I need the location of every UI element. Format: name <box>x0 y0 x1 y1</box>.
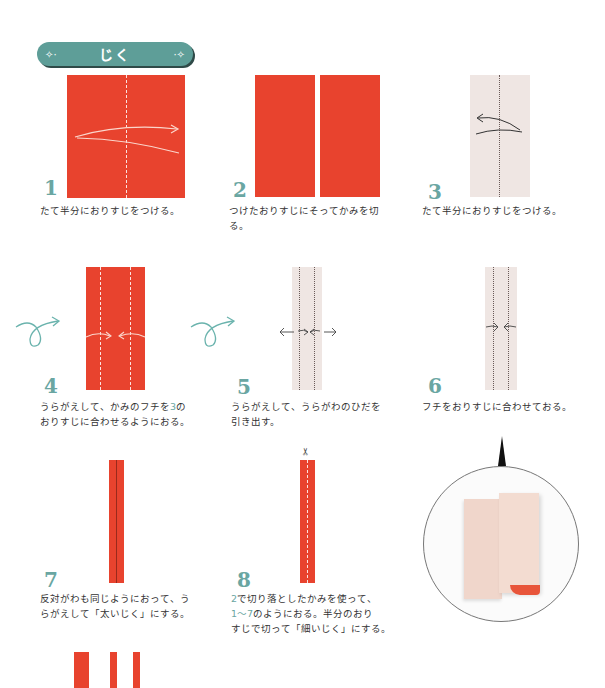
step-7-diagram <box>109 460 124 583</box>
bottom-strip <box>133 652 140 688</box>
fold-arrows-icon <box>484 319 518 335</box>
fold-arrows-icon <box>86 267 145 390</box>
step-number: 8 <box>237 570 251 590</box>
bottom-strip <box>110 652 117 688</box>
section-title: じく <box>99 44 131 64</box>
step-3-diagram <box>470 75 530 197</box>
flip-over-arrow-icon <box>14 317 64 347</box>
step-caption: うらがえして、かみのフチを3の おりすじに合わせるようにおる。 <box>40 399 210 429</box>
pointer-arrow-icon <box>496 436 508 466</box>
step-number: 7 <box>44 570 58 590</box>
step-number: 6 <box>428 376 442 396</box>
bottom-strip <box>74 652 89 688</box>
fold-arrow-icon <box>67 75 185 198</box>
sparkle-icon: ✧· <box>45 49 57 60</box>
step-number: 4 <box>44 376 58 396</box>
sparkle-icon: ·✧ <box>173 49 185 60</box>
step-caption: うらがえして、うらがわのひだを 引き出す。 <box>231 399 411 429</box>
step-caption: つけたおりすじにそってかみを切 る。 <box>229 203 409 233</box>
step-2-right-half <box>320 75 380 197</box>
step-4-diagram <box>86 267 145 390</box>
step-caption: 2で切り落としたかみを使って、 1〜7のようにおる。半分のおり すじで切って「細… <box>231 591 411 636</box>
step-number: 1 <box>44 178 58 198</box>
fold-arrow-icon <box>470 75 530 197</box>
section-title-badge: ✧· じく ·✧ <box>37 42 193 66</box>
step-1-diagram <box>67 75 185 198</box>
step-number: 5 <box>237 377 251 397</box>
step-caption: 反対がわも同じようにおって、う らがえして「太いじく」にする。 <box>40 591 210 621</box>
scissors-icon: ✂ <box>300 447 311 455</box>
step-2-left-half <box>255 75 315 197</box>
step-number: 2 <box>233 180 247 200</box>
step-caption: たて半分におりすじをつける。 <box>422 203 602 218</box>
pull-out-arrows-icon <box>278 322 338 342</box>
step-caption: フチをおりすじに合わせておる。 <box>422 399 602 414</box>
step-caption: たて半分におりすじをつける。 <box>40 203 210 218</box>
detail-photo <box>423 466 579 622</box>
step-number: 3 <box>428 182 442 202</box>
flip-over-arrow-icon <box>189 317 239 347</box>
step-8-diagram <box>300 460 315 583</box>
